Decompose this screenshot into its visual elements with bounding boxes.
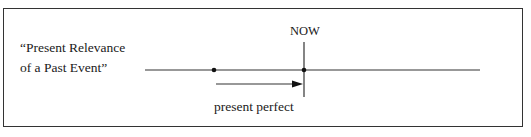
now-dot [302, 68, 307, 73]
past-event-dot [212, 68, 217, 73]
timeline-graphic [0, 0, 531, 137]
arrowhead-icon [292, 81, 303, 88]
